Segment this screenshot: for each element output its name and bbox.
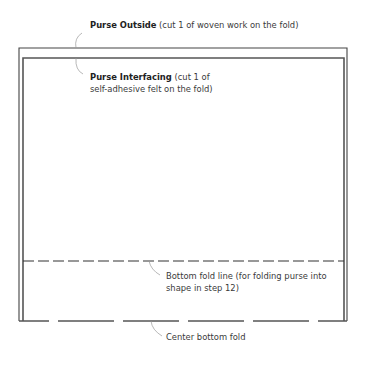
pattern-diagram — [0, 0, 366, 365]
purse-outside-title: Purse Outside — [90, 20, 156, 30]
bottom-fold-line-label: Bottom fold line (for folding purse into… — [166, 270, 327, 294]
leader-bottom-fold — [149, 261, 160, 275]
bottom-fold-line-text-1: Bottom fold line (for folding purse into — [166, 270, 327, 282]
purse-interfacing-label: Purse Interfacing (cut 1 of self-adhesiv… — [90, 71, 213, 95]
purse-interfacing-note-1: (cut 1 of — [172, 72, 210, 82]
purse-outside-label: Purse Outside (cut 1 of woven work on th… — [90, 19, 298, 31]
leader-purse-outside — [76, 33, 82, 48]
purse-interfacing-title: Purse Interfacing — [90, 72, 172, 82]
purse-interfacing-note-2: self-adhesive felt on the fold) — [90, 83, 213, 95]
purse-outside-note: (cut 1 of woven work on the fold) — [156, 20, 298, 30]
bottom-fold-line-text-2: shape in step 12) — [166, 282, 327, 294]
center-bottom-fold-text: Center bottom fold — [166, 332, 246, 342]
center-bottom-fold-label: Center bottom fold — [166, 331, 246, 343]
leader-purse-interfacing — [76, 58, 83, 74]
leader-center-bottom-fold — [151, 321, 162, 336]
